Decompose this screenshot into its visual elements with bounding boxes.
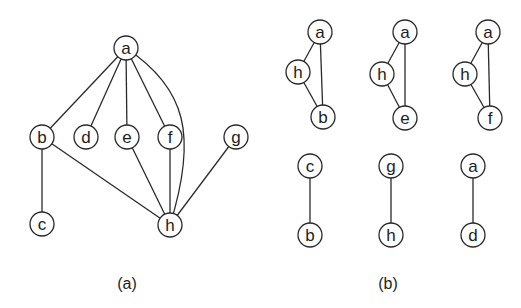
node-label: a — [121, 39, 131, 58]
node-c: c — [30, 212, 54, 236]
node-label: h — [165, 216, 174, 235]
edge-a-b — [42, 48, 126, 137]
node-e: e — [393, 106, 417, 130]
node-label: e — [400, 109, 409, 128]
node-a: a — [114, 36, 138, 60]
component-6: ad — [461, 154, 485, 247]
node-label: b — [305, 226, 314, 245]
node-label: a — [315, 23, 325, 42]
node-label: c — [306, 157, 315, 176]
graph-figure: abdefgch ahbaheahfcbghad (a) (b) — [0, 0, 521, 308]
node-label: b — [37, 128, 46, 147]
node-d: d — [461, 223, 485, 247]
edge-a-b — [320, 32, 323, 117]
node-b: b — [298, 223, 322, 247]
node-label: a — [400, 23, 410, 42]
edge-a-e — [126, 48, 127, 137]
node-label: h — [293, 63, 302, 82]
node-e: e — [115, 125, 139, 149]
node-label: f — [488, 109, 493, 128]
node-b: b — [311, 105, 335, 129]
node-label: h — [386, 226, 395, 245]
component-2: ahe — [370, 20, 417, 130]
node-f: f — [478, 106, 502, 130]
node-h: h — [286, 60, 310, 84]
caption-a: (a) — [117, 275, 137, 292]
node-g: g — [224, 125, 248, 149]
node-a: a — [308, 20, 332, 44]
edge-g-h — [170, 137, 236, 225]
node-label: h — [460, 65, 469, 84]
edge-a-f — [126, 48, 170, 137]
node-label: c — [38, 215, 47, 234]
caption-b: (b) — [378, 275, 398, 292]
node-label: a — [468, 157, 478, 176]
node-g: g — [379, 154, 403, 178]
node-h: h — [158, 213, 182, 237]
node-h: h — [379, 223, 403, 247]
edge-e-h — [127, 137, 170, 225]
edge-a-f — [488, 32, 490, 118]
graph-a: abdefgch — [30, 36, 248, 237]
component-5: gh — [379, 154, 403, 247]
component-3: ahf — [453, 20, 502, 130]
node-h: h — [453, 62, 477, 86]
node-b: b — [30, 125, 54, 149]
node-label: a — [483, 23, 493, 42]
node-label: b — [318, 108, 327, 127]
node-a: a — [461, 154, 485, 178]
node-a: a — [393, 20, 417, 44]
node-label: h — [377, 65, 386, 84]
component-1: ahb — [286, 20, 335, 129]
node-c: c — [298, 154, 322, 178]
node-label: d — [468, 226, 477, 245]
node-label: g — [231, 128, 240, 147]
node-a: a — [476, 20, 500, 44]
node-label: f — [168, 128, 173, 147]
graph-a-nodes: abdefgch — [30, 36, 248, 237]
edge-a-d — [86, 48, 126, 137]
graph-b-components: ahbaheahfcbghad — [286, 20, 502, 247]
node-d: d — [74, 125, 98, 149]
node-label: e — [122, 128, 131, 147]
node-h: h — [370, 62, 394, 86]
node-label: d — [81, 128, 90, 147]
node-label: g — [386, 157, 395, 176]
component-4: cb — [298, 154, 322, 247]
edge-b-h — [42, 137, 170, 225]
node-f: f — [158, 125, 182, 149]
